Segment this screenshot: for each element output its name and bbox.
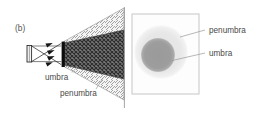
figure-container: (b) umbra penumbra penumbra umbra [0, 0, 258, 115]
left-penumbra-label: penumbra [60, 89, 97, 98]
right-penumbra-label: penumbra [209, 26, 246, 35]
ray-arrowhead-4 [46, 62, 53, 66]
umbra-disc [141, 38, 175, 72]
left-ray-diagram: (b) umbra penumbra [15, 7, 124, 108]
ray-arrowhead-2 [47, 50, 55, 55]
panel-label-b: (b) [15, 23, 25, 33]
opaque-obstacle [62, 42, 65, 67]
ray-arrowhead-1 [46, 43, 53, 47]
optics-shadow-figure: (b) umbra penumbra penumbra umbra [0, 0, 258, 115]
left-umbra-label: umbra [45, 73, 69, 82]
right-screen-panel: penumbra umbra [132, 14, 246, 94]
right-umbra-label: umbra [209, 49, 233, 58]
